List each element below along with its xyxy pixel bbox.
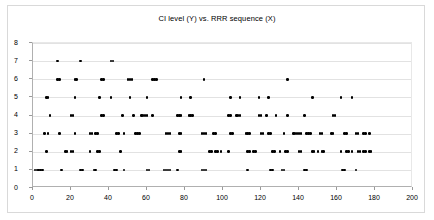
y-tick-label-1: 1: [0, 165, 18, 172]
data-point: [271, 169, 274, 172]
chart-frame: CI level (Y) vs. RRR sequence (X) 012345…: [7, 5, 425, 213]
x-tick-mark-180: [374, 187, 375, 190]
data-point: [131, 78, 134, 81]
data-point: [286, 114, 289, 117]
x-tick-label-160: 160: [321, 194, 351, 201]
data-point: [283, 132, 286, 135]
data-point: [176, 169, 179, 172]
y-tick-mark-1: [29, 169, 32, 170]
data-point: [72, 114, 75, 117]
y-tick-label-7: 7: [0, 57, 18, 64]
x-tick-mark-60: [146, 187, 147, 190]
data-point: [269, 132, 272, 135]
data-point: [300, 132, 303, 135]
data-point: [98, 150, 101, 153]
x-tick-label-40: 40: [93, 194, 123, 201]
data-point: [254, 150, 257, 153]
data-point: [286, 78, 289, 81]
y-tick-mark-2: [29, 151, 32, 152]
data-point: [368, 132, 371, 135]
x-tick-label-20: 20: [55, 194, 85, 201]
chart-title: CI level (Y) vs. RRR sequence (X): [8, 14, 426, 23]
data-point: [151, 114, 154, 117]
y-tick-mark-6: [29, 78, 32, 79]
x-tick-label-60: 60: [131, 194, 161, 201]
data-point: [229, 96, 232, 99]
data-point: [246, 169, 249, 172]
x-tick-label-100: 100: [207, 194, 237, 201]
x-tick-label-140: 140: [283, 194, 313, 201]
data-point: [102, 78, 105, 81]
y-tick-label-2: 2: [0, 147, 18, 154]
y-tick-label-4: 4: [0, 111, 18, 118]
data-point: [121, 114, 124, 117]
gridline-y-5: [33, 97, 411, 98]
data-point: [303, 114, 306, 117]
x-tick-label-120: 120: [245, 194, 275, 201]
gridline-y-6: [33, 79, 411, 80]
y-tick-label-8: 8: [0, 39, 18, 46]
data-point: [231, 132, 234, 135]
data-point: [203, 78, 206, 81]
data-point: [205, 132, 208, 135]
y-tick-label-3: 3: [0, 129, 18, 136]
y-tick-label-5: 5: [0, 93, 18, 100]
x-tick-mark-160: [336, 187, 337, 190]
x-tick-mark-40: [108, 187, 109, 190]
x-tick-label-80: 80: [169, 194, 199, 201]
data-point: [227, 150, 230, 153]
data-point: [267, 96, 270, 99]
y-tick-label-0: 0: [0, 184, 18, 191]
gridline-y-7: [33, 61, 411, 62]
data-point: [248, 150, 251, 153]
data-point: [309, 132, 312, 135]
data-point: [60, 169, 63, 172]
data-point: [94, 169, 97, 172]
data-point: [115, 169, 118, 172]
data-point: [43, 132, 46, 135]
gridline-y-4: [33, 116, 411, 117]
data-point: [364, 150, 367, 153]
gridline-y-8: [33, 43, 411, 44]
x-tick-label-0: 0: [17, 194, 47, 201]
y-tick-label-6: 6: [0, 75, 18, 82]
x-tick-label-200: 200: [397, 194, 427, 201]
x-tick-mark-20: [70, 187, 71, 190]
data-point: [265, 114, 268, 117]
x-tick-mark-200: [412, 187, 413, 190]
data-point: [321, 132, 324, 135]
plot-area: [32, 42, 412, 187]
data-point: [340, 96, 343, 99]
data-point: [81, 169, 84, 172]
data-point: [273, 150, 276, 153]
data-point: [229, 114, 232, 117]
x-tick-mark-140: [298, 187, 299, 190]
x-tick-mark-100: [222, 187, 223, 190]
data-point: [110, 96, 113, 99]
data-point: [340, 150, 343, 153]
x-tick-mark-80: [184, 187, 185, 190]
x-tick-mark-0: [32, 187, 33, 190]
data-point: [58, 132, 61, 135]
data-point: [311, 96, 314, 99]
data-point: [58, 78, 61, 81]
data-point: [343, 169, 346, 172]
data-point: [262, 132, 265, 135]
data-point: [75, 78, 78, 81]
data-point: [102, 114, 105, 117]
data-point: [74, 132, 77, 135]
data-point: [117, 132, 120, 135]
data-point: [364, 132, 367, 135]
y-tick-mark-7: [29, 60, 32, 61]
data-point: [305, 169, 308, 172]
data-point: [138, 132, 141, 135]
data-point: [119, 150, 122, 153]
data-point: [216, 150, 219, 153]
x-tick-label-180: 180: [359, 194, 389, 201]
data-point: [345, 132, 348, 135]
data-point: [322, 150, 325, 153]
data-point: [41, 169, 44, 172]
data-point: [146, 96, 149, 99]
y-tick-mark-3: [29, 133, 32, 134]
data-point: [347, 150, 350, 153]
